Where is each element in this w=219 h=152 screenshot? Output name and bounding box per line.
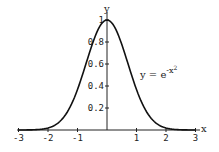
x-tick-label: -2 <box>43 133 54 143</box>
x-tick-label: -1 <box>72 133 83 143</box>
chart-plot: -3-2-1123 0.20.40.60.81 x y y = e-x2 <box>0 0 219 152</box>
curve-annotation: y = e-x2 <box>139 64 178 80</box>
y-tick-label: 0.2 <box>88 103 104 113</box>
x-tick-label: -3 <box>13 133 24 143</box>
x-tick-label: 2 <box>163 133 168 143</box>
y-tick-label: 0.6 <box>88 59 104 69</box>
x-tick-label: 3 <box>193 133 198 143</box>
y-tick-label: 0.8 <box>88 37 104 47</box>
y-tick-label: 0.4 <box>88 81 104 91</box>
x-tick-label: 1 <box>134 133 139 143</box>
x-axis-label: x <box>201 123 207 134</box>
y-axis-label: y <box>103 3 110 14</box>
